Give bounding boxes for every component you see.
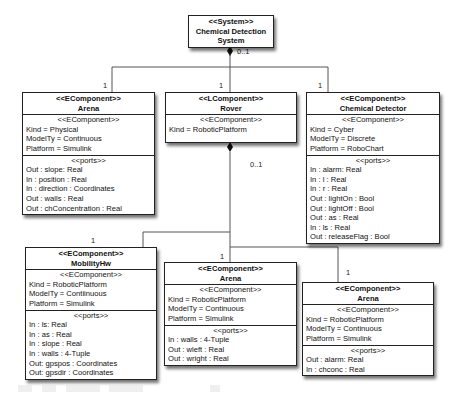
arena-right-prop: ModelTy = Continuous	[306, 324, 430, 334]
chemical-detector-stereotype: <<EComponent>>	[307, 94, 439, 104]
chemical-detector-props-stereotype: <<EComponent>>	[310, 115, 436, 125]
chemical-detector-port: Out : as : Real	[310, 213, 436, 223]
rover-props-stereotype: <<EComponent>>	[169, 115, 293, 125]
arena-right-multiplicity: 1	[346, 268, 350, 277]
system-multiplicity: 0..1	[237, 47, 250, 56]
rover-stereotype: <<LComponent>>	[166, 94, 296, 104]
arena-mid-block[interactable]: <<EComponent>> Arena <<EComponent>> Kind…	[164, 262, 297, 366]
rover-name: Rover	[166, 104, 296, 114]
chemical-detector-port: Out : lightOff : Bool	[310, 204, 436, 214]
arena-mid-name: Arena	[165, 274, 296, 284]
arena-port: Out : slope: Real	[26, 165, 151, 175]
mobilityhw-port: In : as : Real	[29, 330, 153, 340]
arena-mid-port: Out : wleft : Real	[168, 345, 293, 355]
arena-stereotype: <<EComponent>>	[23, 94, 154, 104]
chemical-detector-port: In : ls : Real	[310, 223, 436, 233]
arena-mid-prop: Kind = RoboticPlatform	[168, 295, 293, 305]
arena-port: Out : chConcentration : Real	[26, 204, 151, 214]
uml-diagram: 0..1 1 1 1 0..1 1 1 1 <<System>> Chemica…	[0, 0, 458, 397]
figure-caption-remnant	[18, 385, 258, 392]
arena-right-prop: Platform = Simulink	[306, 334, 430, 344]
arena-right-port: Out : alarm: Real	[306, 355, 430, 365]
mobilityhw-port: In : ls: Real	[29, 320, 153, 330]
chemical-detector-prop: ModelTy = Discrete	[310, 134, 436, 144]
mobilityhw-prop: ModelTy = Contiinuous	[29, 289, 153, 299]
mobilityhw-props-stereotype: <<EComponent>>	[29, 270, 153, 280]
mobilityhw-ports-stereotype: <<ports>>	[29, 311, 153, 321]
arena-mid-prop: ModelTy = Continuous	[168, 304, 293, 314]
chemical-detector-block[interactable]: <<EComponent>> Chemical Detector <<EComp…	[306, 92, 440, 244]
rover-multiplicity: 1	[219, 81, 223, 90]
mobilityhw-port: In : slope : Real	[29, 339, 153, 349]
chemical-detector-port: In : l : Real	[310, 175, 436, 185]
mobilityhw-name: MobilityHw	[26, 259, 156, 269]
chemical-detector-port: Out : lightOn : Bool	[310, 194, 436, 204]
mobilityhw-port: Out: gpsdir : Coordinates	[29, 368, 153, 378]
arena-right-port: In : chconc : Real	[306, 365, 430, 375]
chemical-detector-port: In : alarm: Real	[310, 165, 436, 175]
arena-name: Arena	[23, 104, 154, 114]
arena-prop: Platform = Simulink	[26, 144, 151, 154]
arena-mid-multiplicity: 1	[220, 252, 224, 261]
system-name-line1: Chemical Detection	[189, 27, 273, 37]
arena-mid-stereotype: <<EComponent>>	[165, 264, 296, 274]
arena-block[interactable]: <<EComponent>> Arena <<EComponent>> Kind…	[22, 92, 155, 215]
arena-prop: Kind = Physical	[26, 125, 151, 135]
arena-right-ports-stereotype: <<ports>>	[306, 346, 430, 356]
mobilityhw-multiplicity: 1	[91, 236, 95, 245]
system-stereotype: <<System>>	[189, 17, 273, 27]
chemical-detector-prop: Kind = Cyber	[310, 125, 436, 135]
arena-port: In : direction : Coordinates	[26, 184, 151, 194]
arena-right-stereotype: <<EComponent>>	[303, 284, 433, 294]
arena-right-props-stereotype: <<EComponent>>	[306, 305, 430, 315]
arena-prop: ModelTy = Continuous	[26, 134, 151, 144]
chemical-detector-port: In : r : Real	[310, 184, 436, 194]
system-name-line2: System	[189, 36, 273, 46]
chemical-detector-prop: Platform = RoboChart	[310, 144, 436, 154]
rover-prop: Kind = RoboticPlatform	[169, 125, 293, 135]
arena-right-block[interactable]: <<EComponent>> Arena <<EComponent>> Kind…	[302, 282, 434, 376]
arena-mid-props-stereotype: <<EComponent>>	[168, 285, 293, 295]
mobilityhw-stereotype: <<EComponent>>	[26, 249, 156, 259]
arena-mid-port: In : walls : 4-Tuple	[168, 335, 293, 345]
chemical-detector-multiplicity: 1	[318, 81, 322, 90]
mobilityhw-port: In : walls : 4-Tuple	[29, 349, 153, 359]
mobilityhw-prop: Platform = Simulink	[29, 299, 153, 309]
system-block[interactable]: <<System>> Chemical Detection System	[188, 15, 274, 48]
arena-props-stereotype: <<EComponent>>	[26, 115, 151, 125]
rover-child-multiplicity: 0..1	[250, 160, 263, 169]
rover-block[interactable]: <<LComponent>> Rover <<EComponent>> Kind…	[165, 92, 297, 143]
arena-right-prop: Kind = RoboticPlatform	[306, 315, 430, 325]
arena-port: Out : walls : Real	[26, 194, 151, 204]
chemical-detector-name: Chemical Detector	[307, 104, 439, 114]
mobilityhw-port: Out: gpspos : Coordinates	[29, 359, 153, 369]
arena-right-name: Arena	[303, 294, 433, 304]
chemical-detector-port: Out : releaseFlag : Bool	[310, 232, 436, 242]
arena-mid-prop: Platform = Simulink	[168, 314, 293, 324]
arena-multiplicity: 1	[103, 81, 107, 90]
chemical-detector-ports-stereotype: <<ports>>	[310, 156, 436, 166]
mobilityhw-block[interactable]: <<EComponent>> MobilityHw <<EComponent>>…	[25, 247, 157, 380]
arena-ports-stereotype: <<ports>>	[26, 156, 151, 166]
arena-port: In : position : Real	[26, 175, 151, 185]
composition-diamond-rover	[227, 142, 233, 152]
arena-mid-ports-stereotype: <<ports>>	[168, 326, 293, 336]
mobilityhw-prop: Kind = RoboticPlatform	[29, 280, 153, 290]
arena-mid-port: Out : wright : Real	[168, 354, 293, 364]
